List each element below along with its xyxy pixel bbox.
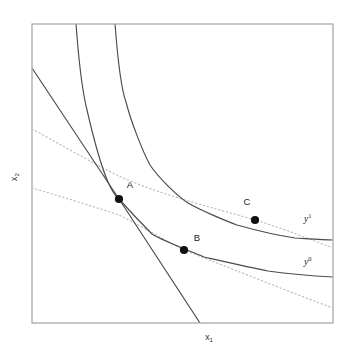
data-point-c xyxy=(251,216,259,224)
figure-container: A B C y1 y0 x1 x2 xyxy=(0,0,352,360)
curve-label-y0-superscript: 0 xyxy=(308,255,311,262)
x-axis-label: x1 xyxy=(205,332,213,343)
point-label-b: B xyxy=(194,232,200,243)
curve-label-y1-superscript: 1 xyxy=(308,212,311,219)
data-point-b xyxy=(180,246,188,254)
y-axis-label: x2 xyxy=(9,173,20,181)
point-label-c: C xyxy=(244,196,251,207)
point-label-a: A xyxy=(127,179,134,190)
plot-frame xyxy=(32,24,333,323)
x-axis-label-subscript: 1 xyxy=(209,336,213,343)
data-point-a xyxy=(115,195,123,203)
isoquant-isocost-plot: A B C y1 y0 x1 x2 xyxy=(0,0,352,360)
y-axis-label-subscript: 2 xyxy=(13,173,20,177)
